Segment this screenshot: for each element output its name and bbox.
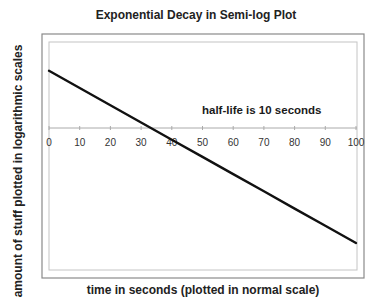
half-life-annotation: half-life is 10 seconds	[202, 104, 322, 116]
chart-plot: 0102030405060708090100 half-life is 10 s…	[0, 0, 382, 307]
x-tick-label: 0	[46, 137, 52, 148]
x-tick-label: 80	[289, 137, 301, 148]
x-tick-label: 30	[136, 137, 148, 148]
x-axis-label: time in seconds (plotted in normal scale…	[42, 283, 364, 297]
x-tick-label: 20	[105, 137, 117, 148]
x-tick-label: 100	[348, 137, 365, 148]
x-tick-label: 70	[258, 137, 270, 148]
x-tick-label: 60	[228, 137, 240, 148]
x-tick-label: 50	[197, 137, 209, 148]
x-tick-label: 90	[320, 137, 332, 148]
x-tick-label: 10	[74, 137, 86, 148]
